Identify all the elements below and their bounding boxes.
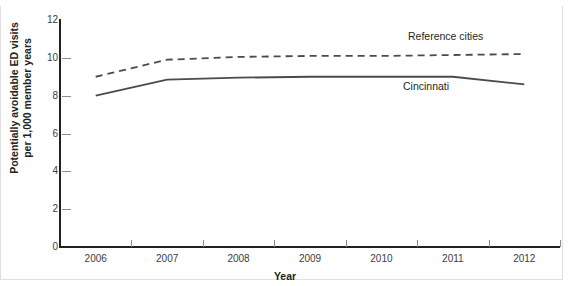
series-line-cincinnati [96, 77, 525, 96]
chart-page: 024681012 2006200720082009201020112012 R… [0, 0, 570, 286]
y-axis-title: Potentially avoidable ED visits per 1,00… [8, 0, 34, 213]
series-label-cincinnati: Cincinnati [403, 80, 449, 92]
y-axis-title-line-1: Potentially avoidable ED visits [8, 0, 21, 213]
y-axis-title-line-2: per 1,000 member years [21, 0, 34, 213]
series-line-reference-cities [96, 54, 525, 77]
chart-plot-area [0, 0, 570, 286]
series-label-reference-cities: Reference cities [408, 30, 483, 42]
x-axis-title: Year [0, 270, 570, 282]
